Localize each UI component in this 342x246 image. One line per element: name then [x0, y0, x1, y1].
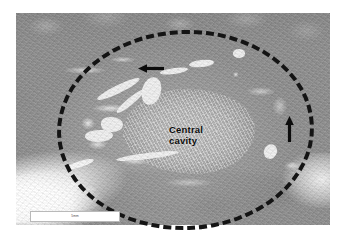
up-arrow-icon — [285, 116, 294, 143]
scale-bar-label: 5mm — [31, 214, 119, 218]
figure-panel: Central cavity 5mm — [0, 0, 342, 246]
central-cavity-label-line1: Central — [169, 124, 203, 135]
left-arrow-icon — [138, 64, 165, 73]
central-cavity-label: Central cavity — [169, 124, 203, 146]
scale-bar: 5mm — [30, 211, 120, 222]
central-cavity-label-line2: cavity — [169, 135, 203, 146]
